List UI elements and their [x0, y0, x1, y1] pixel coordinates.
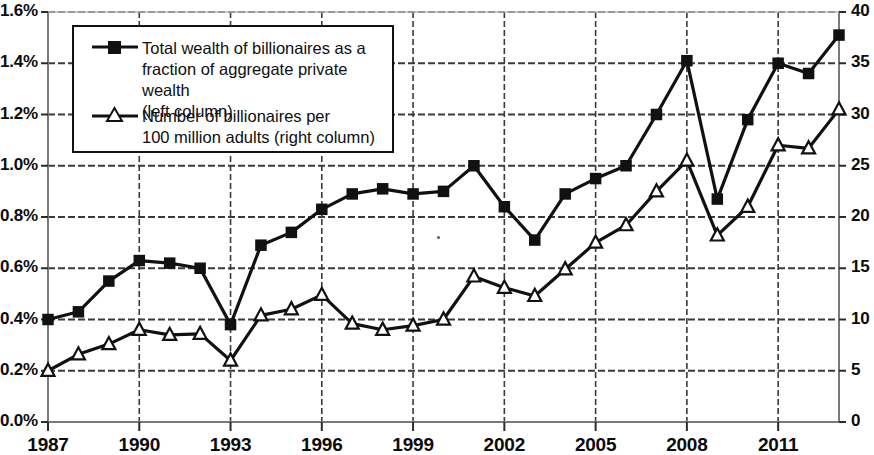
left-axis-tick-label: 0.8%	[0, 206, 37, 226]
left-axis-tick-label: 1.2%	[0, 104, 37, 124]
legend-label-billionaires-count: Number of billionaires per 100 million a…	[142, 106, 375, 148]
x-axis-tick-label: 1999	[378, 434, 448, 455]
right-axis-tick-label: 5	[851, 360, 874, 380]
left-axis-tick-label: 0.2%	[0, 360, 37, 380]
left-axis-tick-label: 0.4%	[0, 309, 37, 329]
scan-artifact-speck	[437, 236, 440, 239]
x-axis-tick-label: 2011	[743, 434, 813, 455]
x-axis-tick-label: 1987	[13, 434, 83, 455]
x-axis-tick-label: 2002	[469, 434, 539, 455]
legend-marker-filled-square	[88, 38, 142, 56]
billionaire-wealth-chart: 0.0%0.2%0.4%0.6%0.8%1.0%1.2%1.4%1.6% 051…	[0, 0, 874, 455]
right-axis-tick-label: 25	[851, 155, 874, 175]
x-axis-tick-label: 2008	[652, 434, 722, 455]
legend-marker-open-triangle	[88, 106, 142, 124]
left-axis-tick-label: 1.4%	[0, 52, 37, 72]
left-axis-tick-label: 1.6%	[0, 1, 37, 21]
right-axis-tick-label: 35	[851, 52, 874, 72]
right-axis-tick-label: 40	[851, 1, 874, 21]
left-axis-tick-label: 0.6%	[0, 257, 37, 277]
right-axis-tick-label: 20	[851, 206, 874, 226]
x-axis-tick-label: 1993	[196, 434, 266, 455]
x-axis-tick-label: 2005	[561, 434, 631, 455]
right-axis-tick-label: 30	[851, 104, 874, 124]
left-axis-tick-label: 1.0%	[0, 155, 37, 175]
x-axis-tick-label: 1990	[104, 434, 174, 455]
right-axis-tick-label: 0	[851, 411, 874, 431]
x-axis-tick-label: 1996	[287, 434, 357, 455]
right-axis-tick-label: 15	[851, 257, 874, 277]
left-axis-tick-label: 0.0%	[0, 411, 37, 431]
right-axis-tick-label: 10	[851, 309, 874, 329]
legend-entry-billionaires-count: Number of billionaires per 100 million a…	[88, 106, 388, 148]
chart-legend: Total wealth of billionaires as a fracti…	[72, 25, 394, 153]
